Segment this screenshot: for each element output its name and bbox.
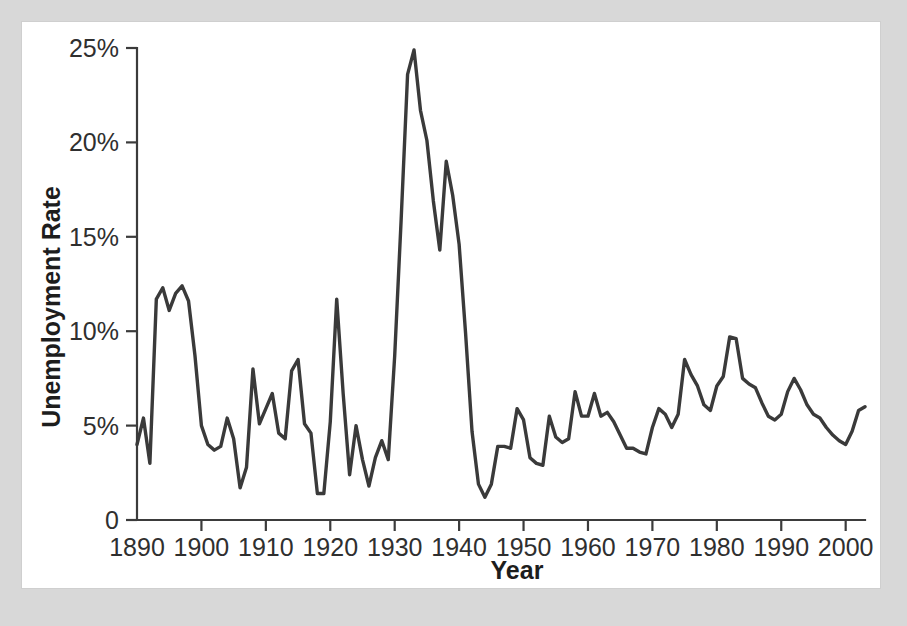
x-tick-label: 1930 [367, 533, 423, 561]
figure-root: 05%10%15%20%25% 189019001910192019301940… [0, 0, 907, 626]
y-tick-label: 15% [69, 223, 119, 251]
x-tick-label: 2000 [818, 533, 874, 561]
series-line [137, 50, 865, 497]
x-tick-label: 1920 [302, 533, 358, 561]
x-axis-title: Year [491, 556, 544, 584]
x-tick-marks [201, 520, 845, 531]
x-tick-label: 1960 [560, 533, 616, 561]
y-axis-title: Unemployment Rate [37, 186, 65, 428]
y-axis-tick-labels: 05%10%15%20%25% [69, 34, 119, 534]
y-tick-label: 20% [69, 128, 119, 156]
x-tick-label: 1890 [109, 533, 165, 561]
x-tick-label: 1900 [174, 533, 230, 561]
x-tick-label: 1910 [238, 533, 294, 561]
x-tick-label: 1990 [753, 533, 809, 561]
data-series-group [137, 50, 865, 497]
y-tick-label: 10% [69, 317, 119, 345]
y-tick-label: 0 [105, 506, 119, 534]
chart-panel: 05%10%15%20%25% 189019001910192019301940… [22, 22, 880, 588]
y-tick-label: 5% [83, 412, 119, 440]
y-tick-label: 25% [69, 34, 119, 62]
y-tick-marks [126, 48, 137, 520]
x-tick-label: 1980 [689, 533, 745, 561]
x-tick-label: 1940 [431, 533, 487, 561]
x-tick-label: 1970 [625, 533, 681, 561]
line-chart: 05%10%15%20%25% 189019001910192019301940… [22, 22, 880, 588]
